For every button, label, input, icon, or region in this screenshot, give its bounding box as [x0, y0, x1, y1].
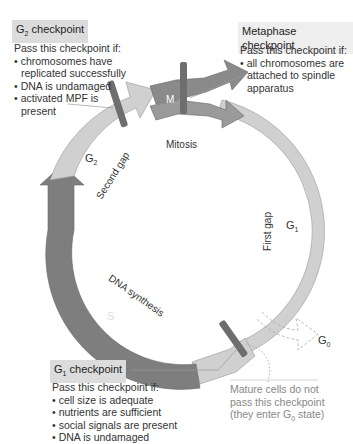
metaphase-checkpoint-bar	[180, 62, 187, 114]
mitosis-arrow-down	[150, 100, 244, 128]
g0-note-line3-text: (they enter G	[230, 408, 291, 420]
g0-note-line2: pass this checkpoint	[230, 396, 325, 409]
g0-label: G0	[318, 334, 330, 348]
g1-label-text: G	[286, 219, 295, 231]
g0-note-line1: Mature cells do not	[230, 383, 325, 396]
g1-condition: nutrients are sufficient	[52, 406, 192, 419]
g2-condition: chromosomes have replicated successfully	[14, 55, 134, 80]
first-gap-label: First gap	[262, 212, 273, 251]
g2-title-rest: checkpoint	[28, 23, 84, 35]
g1-checkpoint-title: G1 checkpoint	[50, 360, 126, 383]
g2-label-text: G	[85, 152, 94, 164]
g2-condition: DNA is undamaged	[14, 80, 134, 93]
g1-label-sub: 1	[295, 226, 299, 233]
g1-condition: social signals are present	[52, 419, 192, 432]
s-label: S	[107, 310, 114, 322]
g0-note-line3-rest: state)	[295, 408, 324, 420]
g0-note: Mature cells do not pass this checkpoint…	[230, 383, 325, 426]
g0-label-text: G	[318, 334, 327, 346]
g1-checkpoint-conditions: Pass this checkpoint if: cell size is ad…	[52, 381, 192, 444]
g1-condition: DNA is undamaged	[52, 431, 192, 444]
g2-checkpoint-conditions: Pass this checkpoint if: chromosomes hav…	[14, 42, 134, 117]
g2-intro: Pass this checkpoint if:	[14, 42, 134, 55]
g1-arrow-head	[192, 338, 255, 384]
g2-label: G2	[85, 152, 97, 166]
mitosis-arrow-up	[150, 60, 248, 104]
g1-intro: Pass this checkpoint if:	[52, 381, 192, 394]
metaphase-checkpoint-conditions: Pass this checkpoint if: all chromosomes…	[240, 44, 350, 94]
g0-label-sub: 0	[327, 341, 331, 348]
g2-label-sub: 2	[94, 159, 98, 166]
g2-checkpoint-title: G2 checkpoint	[12, 20, 88, 43]
g2-condition: activated MPF is present	[14, 92, 101, 117]
g1-title-text: G	[54, 363, 63, 375]
metaphase-intro: Pass this checkpoint if:	[240, 44, 350, 57]
g2-title-text: G	[16, 23, 25, 35]
g1-title-rest: checkpoint	[66, 363, 122, 375]
g1-label: G1	[286, 219, 298, 233]
m-label: M	[166, 94, 174, 105]
metaphase-condition: all chromosomes are attached to spindle …	[240, 57, 350, 95]
mitosis-label: Mitosis	[166, 139, 197, 150]
g0-note-line3: (they enter G0 state)	[230, 408, 325, 426]
g1-condition: cell size is adequate	[52, 394, 192, 407]
